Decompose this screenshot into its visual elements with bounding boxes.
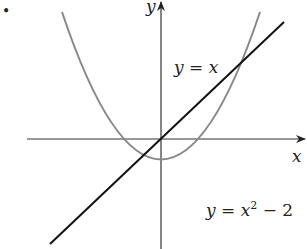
x-axis-label: x [292, 146, 302, 166]
parabola-label: y = x2 − 2 [205, 199, 293, 220]
diagram: • y x y = x y = x2 − 2 [0, 0, 307, 249]
line-label: y = x [173, 57, 219, 77]
y-axis-label: y [145, 0, 156, 16]
bullet-marker: • [2, 3, 10, 19]
plot-canvas: • y x y = x y = x2 − 2 [0, 0, 307, 249]
